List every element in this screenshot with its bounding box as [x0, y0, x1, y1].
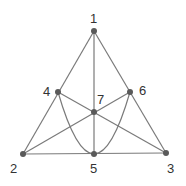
point-6: [127, 89, 133, 95]
labels: 1 2 3 4 5 6 7: [10, 11, 174, 176]
label-5: 5: [90, 161, 97, 176]
label-1: 1: [90, 11, 97, 26]
point-3: [163, 150, 169, 156]
label-7: 7: [97, 92, 104, 107]
point-7: [91, 109, 97, 115]
fano-diagram: 1 2 3 4 5 6 7: [0, 0, 186, 186]
point-1: [91, 28, 97, 34]
line-3-7-4: [58, 92, 166, 153]
label-4: 4: [43, 84, 50, 99]
label-3: 3: [167, 161, 174, 176]
label-2: 2: [10, 161, 17, 176]
point-4: [55, 89, 61, 95]
point-5: [91, 151, 97, 157]
point-2: [20, 151, 26, 157]
label-6: 6: [139, 83, 146, 98]
